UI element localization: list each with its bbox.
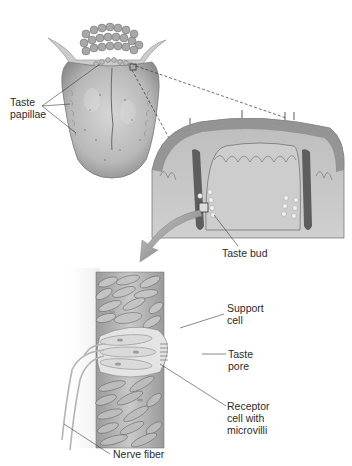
label-support-cell: Support cell bbox=[227, 302, 264, 326]
label-taste-pore: Taste pore bbox=[228, 348, 253, 372]
vallate-papillae bbox=[80, 23, 143, 55]
receptor-cells bbox=[100, 333, 156, 371]
label-taste-bud: Taste bud bbox=[222, 247, 268, 259]
label-nerve-fiber: Nerve fiber bbox=[113, 448, 164, 460]
papilla-body bbox=[206, 143, 301, 230]
label-receptor-cell: Receptor cell with microvilli bbox=[227, 400, 270, 436]
label-taste-papillae: Taste papillae bbox=[10, 96, 46, 120]
taste-anatomy-diagram bbox=[0, 0, 352, 466]
tongue-body bbox=[62, 62, 159, 178]
taste-bud-detail bbox=[60, 268, 168, 450]
tongue-illustration bbox=[48, 23, 166, 178]
